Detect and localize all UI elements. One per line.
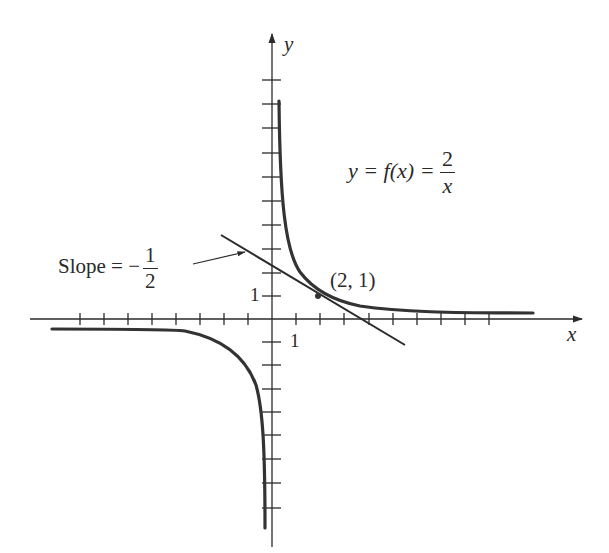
function-label: y = f(x) = 2x <box>348 148 455 197</box>
slope-fraction-denominator: 2 <box>145 269 156 292</box>
slope-fraction-numerator: 1 <box>143 245 158 269</box>
tangent-point <box>315 293 321 299</box>
function-fraction-numerator: 2 <box>440 148 455 173</box>
tangent-line <box>221 235 405 345</box>
x-axis <box>30 313 582 325</box>
curve-negative-branch <box>52 329 265 528</box>
function-label-lhs: y = f(x) = <box>348 158 440 183</box>
y-axis-label: y <box>284 32 293 57</box>
x-axis-label: x <box>567 322 576 347</box>
function-fraction-denominator: x <box>443 173 453 197</box>
slope-label-text: Slope = − <box>58 254 140 278</box>
x-tick-label-one: 1 <box>290 330 300 352</box>
slope-pointer-arrow <box>193 252 245 264</box>
slope-label: Slope = −12 <box>58 245 158 292</box>
curve-positive-branch <box>279 101 533 313</box>
point-label: (2, 1) <box>330 268 376 293</box>
slope-fraction: 12 <box>143 245 158 292</box>
y-tick-label-one: 1 <box>250 284 260 306</box>
function-fraction: 2x <box>440 148 455 197</box>
